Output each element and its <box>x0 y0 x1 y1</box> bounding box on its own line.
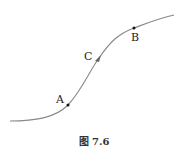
point-a <box>67 104 70 107</box>
figure-caption: 图 7.6 <box>0 133 188 148</box>
point-b <box>133 27 136 30</box>
label-b: B <box>131 31 139 44</box>
s-curve <box>10 15 174 121</box>
label-a: A <box>55 93 65 106</box>
arrow-icon <box>95 55 101 62</box>
label-c: C <box>84 50 92 63</box>
